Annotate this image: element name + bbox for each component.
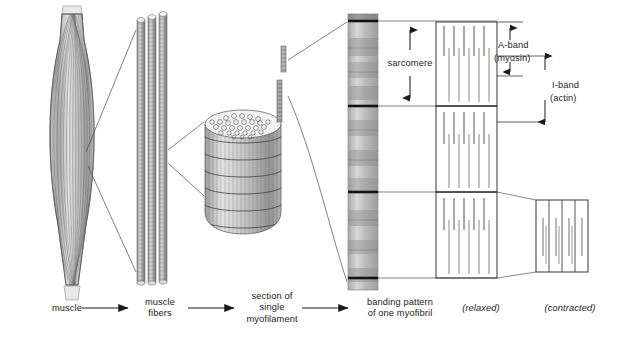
annotation-a-band-protein: (myosin) xyxy=(494,53,530,64)
single-myofilament-cylinder xyxy=(205,46,286,236)
muscle-fiber xyxy=(159,12,167,285)
flow-label-line: of one myofibril xyxy=(347,308,453,319)
state-label-contracted: (contracted) xyxy=(545,303,596,314)
thick-filament xyxy=(444,26,484,56)
flow-label-line: section of xyxy=(225,291,319,302)
flow-label-muscle: muscle xyxy=(52,303,82,314)
thin-filament xyxy=(449,220,489,274)
flow-label-banding-pattern: banding pattern of one myofibril xyxy=(347,297,453,320)
taper-connectors xyxy=(497,192,536,278)
flow-label-line: myofilament xyxy=(225,314,319,325)
figure-canvas: muscle muscle fibers section of single m… xyxy=(0,0,620,350)
thick-filament xyxy=(444,198,484,230)
extracted-myofilament xyxy=(277,46,286,122)
flow-label-muscle-fibers: muscle fibers xyxy=(125,297,195,320)
relaxed-sarcomere-diagram xyxy=(436,22,497,278)
annotation-a-band: A-band xyxy=(498,40,529,51)
whole-muscle-illustration xyxy=(50,6,94,300)
banding-pattern-column xyxy=(348,14,378,290)
thin-filament xyxy=(449,134,489,188)
thick-filament xyxy=(444,112,484,144)
flow-label-line: banding pattern xyxy=(347,297,453,308)
flow-label-line: single xyxy=(225,302,319,313)
muscle-fiber xyxy=(148,15,156,286)
band-brackets xyxy=(497,22,545,122)
leader-lines-fibers-to-cylinder xyxy=(168,122,204,196)
annotation-i-band: I-band xyxy=(552,80,579,91)
thin-filament xyxy=(449,48,489,102)
leader-lines-filament-to-banding xyxy=(288,22,347,282)
thin-filament xyxy=(546,226,572,264)
flow-label-line: fibers xyxy=(125,308,195,319)
flow-label-line: muscle xyxy=(125,297,195,308)
annotation-sarcomere: sarcomere xyxy=(388,58,433,69)
state-label-relaxed: (relaxed) xyxy=(462,303,500,314)
annotation-i-band-protein: (actin) xyxy=(550,93,577,104)
muscle-fiber xyxy=(137,18,145,286)
flow-label-section-of-single-myofilament: section of single myofilament xyxy=(225,291,319,325)
contracted-sarcomere-diagram xyxy=(536,200,588,272)
muscle-fibers-bundle xyxy=(137,12,167,286)
